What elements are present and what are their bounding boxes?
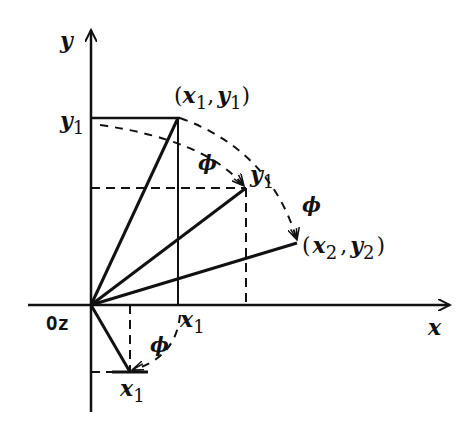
x1-axis-label: x1	[179, 306, 205, 337]
y-axis-label: y	[59, 27, 75, 53]
phi-label-inner: ϕ	[198, 151, 217, 175]
labels: y x Oz y1 (x1,y1) y1 (x2,y2) x1 x1 ϕ ϕ ϕ	[46, 27, 442, 406]
phi-label-outer: ϕ	[302, 193, 321, 217]
y1-tick-label: y1	[59, 107, 84, 138]
origin-label: Oz	[46, 312, 69, 334]
phi-label-bottom: ϕ	[150, 333, 169, 357]
p2-label: (x2,y2)	[302, 232, 385, 263]
rotation-diagram: y x Oz y1 (x1,y1) y1 (x2,y2) x1 x1 ϕ ϕ ϕ	[0, 0, 475, 430]
vector-v1	[91, 188, 246, 305]
axes	[28, 30, 450, 412]
x-axis-label: x	[427, 314, 442, 340]
v1-label: y1	[249, 161, 274, 192]
vector-p1	[91, 118, 178, 305]
x1-below-label: x1	[119, 375, 145, 406]
vector-bottom	[91, 305, 130, 372]
vector-p2	[91, 243, 297, 305]
p1-label: (x1,y1)	[174, 82, 250, 113]
